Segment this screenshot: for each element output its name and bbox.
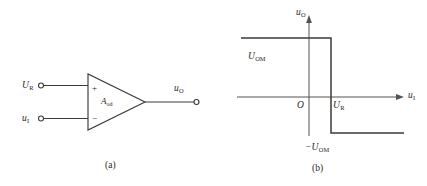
noninverting-input-label: UR — [22, 81, 33, 91]
inverting-input-terminal — [39, 116, 44, 121]
y-axis-label: uO — [296, 8, 306, 18]
high-saturation-label: UOM — [248, 52, 265, 62]
origin-label: O — [297, 101, 304, 111]
x-axis-label: uI — [408, 91, 415, 101]
x-axis-arrowhead — [396, 94, 404, 100]
minus-sign-label: − — [92, 114, 97, 123]
y-axis-arrowhead — [306, 15, 312, 23]
panel-b-caption: (b) — [312, 163, 323, 173]
figure-container: UR uI uO + − Aod (a) uO uI UOM −UOM O UR… — [0, 0, 427, 186]
threshold-label: UR — [333, 101, 344, 111]
noninverting-input-terminal — [39, 83, 44, 88]
figure-vector-drawing — [0, 0, 427, 186]
gain-label: Aod — [101, 96, 113, 106]
plus-sign-label: + — [92, 84, 97, 93]
transfer-characteristic-plot — [237, 15, 404, 136]
inverting-input-label: uI — [22, 114, 29, 124]
output-terminal — [194, 100, 199, 105]
panel-a-caption: (a) — [105, 160, 116, 170]
output-label: uO — [174, 84, 184, 94]
low-saturation-label: −UOM — [305, 143, 329, 153]
